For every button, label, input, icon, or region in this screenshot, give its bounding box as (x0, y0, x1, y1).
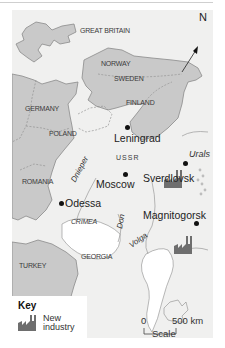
label-georgia: GEORGIA (81, 253, 112, 260)
factory-icon-magnitogorsk (174, 236, 192, 254)
label-moscow: Moscow (96, 179, 135, 190)
label-magnitogorsk: Magnitogorsk (143, 210, 206, 221)
city-dot-moscow (123, 172, 128, 177)
city-dot-leningrad (125, 125, 130, 130)
city-dot-odessa (59, 201, 64, 206)
key-label-new-industry: New industry (43, 314, 75, 332)
scale-label: Scale (152, 328, 176, 338)
great-britain-landmass (16, 22, 76, 62)
key-title: Key (18, 300, 36, 311)
label-sweden: SWEDEN (114, 75, 144, 82)
label-poland: POLAND (49, 130, 77, 137)
label-romania: ROMANIA (22, 178, 53, 185)
northern-river (182, 132, 208, 137)
label-leningrad: Leningrad (114, 133, 161, 144)
label-norway: NORWAY (101, 60, 130, 67)
key-label-line2: industry (43, 322, 75, 332)
city-dot-magnitogorsk (194, 221, 199, 226)
scandinavia-landmass (82, 48, 202, 140)
label-germany: GERMANY (25, 105, 59, 112)
label-ussr: USSR (116, 154, 139, 161)
north-label: N (199, 12, 207, 23)
label-great-britain: GREAT BRITAIN (80, 27, 130, 34)
map-key: Key New industry (12, 296, 87, 338)
label-crimea: CRIMEA (71, 218, 97, 225)
label-sverdlovsk: Sverdlovsk (143, 173, 194, 184)
label-odessa: Odessa (65, 198, 101, 209)
top-rule (0, 2, 213, 3)
city-dot-sverdlovsk (183, 161, 188, 166)
map-area: N GREAT BRITAIN NORWAY SWEDEN FINLAND GE… (12, 10, 213, 338)
scale-start: 0 (141, 315, 146, 326)
scale-end: 500 km (172, 315, 203, 326)
label-urals: Urals (189, 150, 210, 159)
factory-icon (18, 315, 40, 331)
urals-mountains-icon (197, 169, 207, 196)
label-finland: FINLAND (126, 99, 155, 106)
label-turkey: TURKEY (19, 262, 46, 269)
